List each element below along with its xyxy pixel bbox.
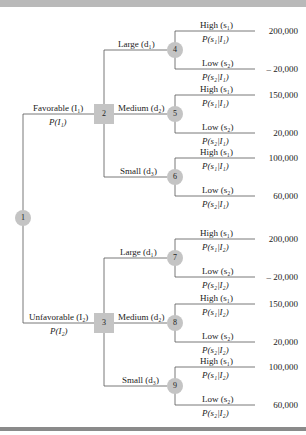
payoff: 200,000 <box>248 234 298 244</box>
branch-large-1: Large (d₁) <box>118 39 155 49</box>
payoff: – 20,000 <box>248 272 298 282</box>
state-low-label: Low (s₂) <box>202 185 233 195</box>
favorable-prob: P(I₁) <box>49 117 67 127</box>
state-high-prob: P(s₁|I₁) <box>202 34 229 44</box>
branch-medium-2: Medium (d₂) <box>118 312 164 322</box>
node-8-number: 8 <box>167 318 183 328</box>
payoff: 150,000 <box>248 299 298 309</box>
node-5-number: 5 <box>167 109 183 119</box>
state-low-prob: P(s₂|I₂) <box>202 280 229 290</box>
branch-small-1: Small (d₃) <box>120 166 157 176</box>
state-high-label: High (s₁) <box>200 20 233 30</box>
payoff: 200,000 <box>248 26 298 36</box>
state-low-label: Low (s₂) <box>202 394 233 404</box>
state-low-label: Low (s₂) <box>202 58 233 68</box>
node-6-number: 6 <box>167 172 183 182</box>
state-low-label: Low (s₂) <box>202 266 233 276</box>
payoff: 60,000 <box>248 191 298 201</box>
state-high-label: High (s₁) <box>200 293 233 303</box>
payoff: 150,000 <box>248 90 298 100</box>
state-high-prob: P(s₁|I₂) <box>202 370 229 380</box>
node-2-number: 2 <box>96 109 112 119</box>
favorable-label: Favorable (I₁) <box>33 103 83 113</box>
payoff: 60,000 <box>248 400 298 410</box>
state-low-prob: P(s₂|I₁) <box>202 199 229 209</box>
state-high-label: High (s₁) <box>200 228 233 238</box>
node-9-number: 9 <box>167 381 183 391</box>
state-high-label: High (s₁) <box>200 356 233 366</box>
state-high-label: High (s₁) <box>200 147 233 157</box>
state-low-label: Low (s₂) <box>202 331 233 341</box>
payoff: 20,000 <box>248 128 298 138</box>
payoff: 20,000 <box>248 337 298 347</box>
state-high-prob: P(s₁|I₂) <box>202 307 229 317</box>
state-high-prob: P(s₁|I₂) <box>202 242 229 252</box>
state-high-prob: P(s₁|I₁) <box>202 161 229 171</box>
payoff: – 20,000 <box>248 64 298 74</box>
state-low-label: Low (s₂) <box>202 122 233 132</box>
payoff: 100,000 <box>248 153 298 163</box>
state-low-prob: P(s₂|I₁) <box>202 136 229 146</box>
state-low-prob: P(s₂|I₂) <box>202 345 229 355</box>
node-3-number: 3 <box>96 318 112 328</box>
branch-small-2: Small (d₃) <box>122 375 159 385</box>
state-low-prob: P(s₂|I₁) <box>202 72 229 82</box>
unfavorable-prob: P(I₂) <box>50 326 68 336</box>
payoff: 100,000 <box>248 362 298 372</box>
node-4-number: 4 <box>167 45 183 55</box>
state-high-prob: P(s₁|I₁) <box>202 98 229 108</box>
node-1-number: 1 <box>15 213 31 223</box>
branch-medium-1: Medium (d₂) <box>118 103 164 113</box>
branch-large-2: Large (d₁) <box>120 247 157 257</box>
state-high-label: High (s₁) <box>200 84 233 94</box>
node-7-number: 7 <box>167 253 183 263</box>
unfavorable-label: Unfavorable (I₂) <box>29 312 88 322</box>
state-low-prob: P(s₂|I₂) <box>202 408 229 418</box>
bottom-border-bar <box>0 427 306 431</box>
